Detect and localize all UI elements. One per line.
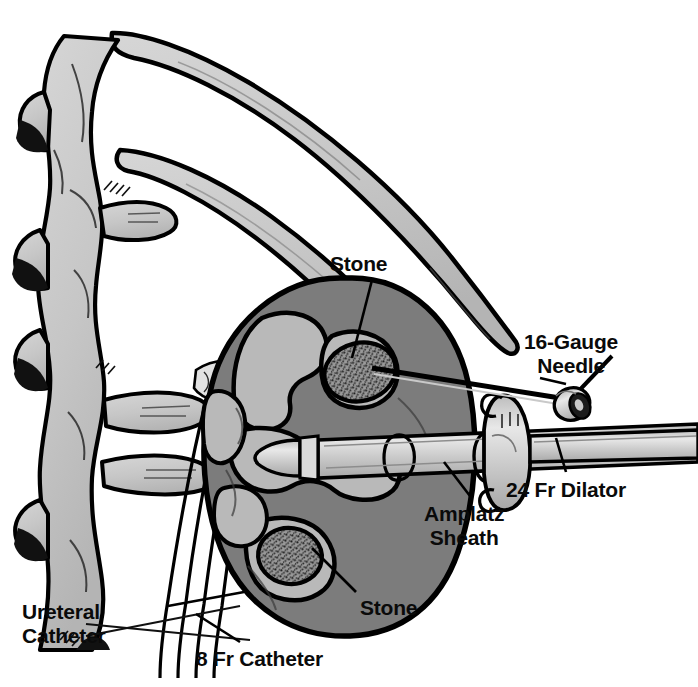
label-16-gauge-needle: 16-Gauge Needle bbox=[524, 330, 618, 377]
label-8-fr-catheter: 8 Fr Catheter bbox=[196, 647, 323, 671]
label-amplatz-sheath: Amplatz Sheath bbox=[424, 502, 504, 549]
pcnl-illustration: Stone 16-Gauge Needle 24 Fr Dilator Ampl… bbox=[0, 0, 698, 687]
label-ureteral-catheter: Ureteral Catheter bbox=[22, 600, 106, 647]
label-24-fr-dilator: 24 Fr Dilator bbox=[506, 478, 626, 502]
label-stone-upper: Stone bbox=[330, 252, 387, 276]
label-stone-lower: Stone bbox=[360, 596, 417, 620]
